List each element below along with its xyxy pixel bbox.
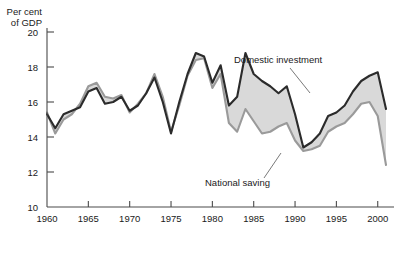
x-tick-label-1980: 1980 [202,213,223,224]
leader-line-domestic-investment [290,68,310,93]
chart-root: Per cent of GDP 101214161820 19601965197… [0,0,404,256]
y-tick-label-12: 12 [27,167,38,178]
y-tick-label-16: 16 [27,97,38,108]
y-tick-label-10: 10 [27,202,38,213]
y-tick-label-14: 14 [27,132,38,143]
gap-fill-polygon [47,53,386,165]
leader-line-national-saving [264,153,281,178]
x-tick-label-1965: 1965 [78,213,99,224]
x-tick-label-1960: 1960 [36,213,57,224]
y-axis-title-line1: Per cent [7,6,43,17]
domestic-investment-line [47,53,386,148]
x-tick-label-1970: 1970 [119,213,140,224]
x-tick-label-1995: 1995 [326,213,347,224]
y-tick-label-20: 20 [27,27,38,38]
x-axis-ticks: 196019651970197519801985199019952000 [36,201,388,224]
annotation-domestic-investment: Domestic investment [234,54,323,65]
y-tick-label-18: 18 [27,62,38,73]
x-tick-label-1975: 1975 [160,213,181,224]
x-tick-label-1990: 1990 [284,213,305,224]
x-tick-label-2000: 2000 [367,213,388,224]
x-tick-label-1985: 1985 [243,213,264,224]
saving-investment-area-chart: Per cent of GDP 101214161820 19601965197… [0,0,404,256]
annotation-national-saving: National saving [205,177,270,188]
domestic-investment-polyline [47,53,386,148]
shaded-gap-band [47,53,386,165]
